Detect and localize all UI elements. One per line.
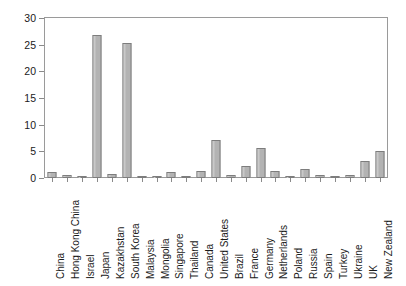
x-axis-tick-label: Spain — [324, 253, 334, 279]
bar — [375, 151, 384, 178]
x-axis-tick-mark — [157, 178, 158, 182]
bar — [360, 161, 369, 178]
bar-chart: 051015202530 ChinaHong Kong ChinaIsraelJ… — [0, 0, 406, 286]
x-axis-tick-label: UK — [369, 265, 379, 279]
x-axis-tick-mark — [142, 178, 143, 182]
x-axis-tick-mark — [127, 178, 128, 182]
x-axis-tick-label: Turkey — [339, 249, 349, 279]
y-axis-tick-mark — [39, 45, 44, 46]
bar-slot — [164, 18, 179, 178]
bar-slot — [253, 18, 268, 178]
x-axis-tick-label: New Zealand — [384, 220, 394, 279]
y-axis-tick-mark — [39, 98, 44, 99]
x-axis-tick-label: Hong Kong China — [71, 200, 81, 279]
x-axis-tick-mark — [261, 178, 262, 182]
x-axis-tick-label: Mongolia — [161, 238, 171, 279]
bar — [271, 171, 280, 178]
y-axis-tick-label: 30 — [8, 13, 36, 23]
x-axis-tick-mark — [67, 178, 68, 182]
x-axis-tick-label: Germany — [265, 238, 275, 279]
x-axis-tick-mark — [231, 178, 232, 182]
bars-container — [45, 18, 387, 178]
x-axis-tick-mark — [305, 178, 306, 182]
x-axis-tick-label: Malaysia — [146, 240, 156, 279]
x-axis-tick-mark — [112, 178, 113, 182]
y-axis-tick-mark — [39, 151, 44, 152]
bar — [93, 35, 102, 178]
bar-slot — [372, 18, 387, 178]
bar-slot — [313, 18, 328, 178]
bar-slot — [104, 18, 119, 178]
x-axis-tick-label: United States — [220, 219, 230, 279]
y-axis-tick-label: 25 — [8, 40, 36, 50]
x-axis-tick-mark — [171, 178, 172, 182]
x-axis-tick-mark — [290, 178, 291, 182]
x-axis-tick-label: China — [56, 253, 66, 279]
bar-slot — [60, 18, 75, 178]
x-axis-tick-mark — [216, 178, 217, 182]
bar-slot — [75, 18, 90, 178]
x-axis-tick-mark — [52, 178, 53, 182]
x-axis-tick-label: Netherlands — [279, 225, 289, 279]
y-axis-tick-mark — [39, 178, 44, 179]
y-axis-tick-label: 0 — [8, 173, 36, 183]
x-axis-tick-mark — [335, 178, 336, 182]
x-axis-tick-label: Israel — [86, 255, 96, 279]
x-axis-tick-mark — [82, 178, 83, 182]
x-axis-tick-mark — [246, 178, 247, 182]
y-axis-tick-label: 20 — [8, 66, 36, 76]
x-axis-tick-label: Brazil — [235, 254, 245, 279]
bar-slot — [134, 18, 149, 178]
bar-slot — [268, 18, 283, 178]
x-axis-tick-label: Kazakhstan — [116, 227, 126, 279]
x-axis-tick-mark — [201, 178, 202, 182]
x-axis-tick-label: South Korea — [131, 223, 141, 279]
bar-slot — [149, 18, 164, 178]
bar-slot — [238, 18, 253, 178]
x-axis-tick-mark — [275, 178, 276, 182]
y-axis-tick-label: 5 — [8, 146, 36, 156]
bar-slot — [179, 18, 194, 178]
x-axis-tick-label: Canada — [205, 244, 215, 279]
bar — [197, 171, 206, 178]
x-axis-tick-mark — [186, 178, 187, 182]
bar-slot — [342, 18, 357, 178]
x-axis-tick-mark — [320, 178, 321, 182]
bar-slot — [209, 18, 224, 178]
bar — [256, 148, 265, 178]
bar-slot — [283, 18, 298, 178]
x-axis-tick-label: Singapore — [175, 233, 185, 279]
x-axis-tick-mark — [350, 178, 351, 182]
x-axis-tick-mark — [97, 178, 98, 182]
y-axis-tick-label: 15 — [8, 93, 36, 103]
x-axis-tick-label: Russia — [309, 248, 319, 279]
bar — [241, 166, 250, 178]
bar-slot — [194, 18, 209, 178]
bar-slot — [298, 18, 313, 178]
x-axis-tick-mark — [380, 178, 381, 182]
x-axis-tick-label: Poland — [294, 248, 304, 279]
x-axis-tick-label: Ukraine — [354, 245, 364, 279]
bar-slot — [357, 18, 372, 178]
bar-slot — [223, 18, 238, 178]
x-axis-tick-label: France — [250, 248, 260, 279]
y-axis-tick-mark — [39, 125, 44, 126]
bar-slot — [45, 18, 60, 178]
x-axis-tick-label: Thailand — [190, 241, 200, 279]
bar-slot — [90, 18, 105, 178]
x-axis-labels: ChinaHong Kong ChinaIsraelJapanKazakhsta… — [45, 183, 387, 283]
bar — [122, 43, 131, 178]
y-axis-tick-mark — [39, 71, 44, 72]
y-axis-tick-mark — [39, 18, 44, 19]
bar-slot — [119, 18, 134, 178]
x-axis-tick-mark — [365, 178, 366, 182]
bar — [301, 169, 310, 178]
bar — [211, 140, 220, 178]
x-axis-tick-label: Japan — [101, 252, 111, 279]
bar-slot — [328, 18, 343, 178]
y-axis: 051015202530 — [0, 0, 44, 196]
y-axis-tick-label: 10 — [8, 120, 36, 130]
